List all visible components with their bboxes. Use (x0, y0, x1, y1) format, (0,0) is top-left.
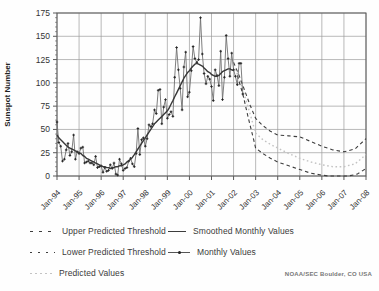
svg-text:Jan-96: Jan-96 (83, 188, 107, 212)
svg-text:Jan-05: Jan-05 (282, 188, 306, 212)
svg-text:Jan-94: Jan-94 (39, 188, 63, 212)
svg-text:Jan-01: Jan-01 (193, 188, 217, 212)
svg-text:125: 125 (36, 55, 50, 65)
smoothed-line-sample-icon (168, 229, 186, 234)
svg-text:Jan-97: Jan-97 (105, 188, 129, 212)
legend-label: Upper Predicted Threshold (62, 226, 166, 236)
svg-text:0: 0 (45, 171, 50, 181)
svg-text:Jan-03: Jan-03 (237, 188, 261, 212)
sunspot-progression-chart: 0255075100125150175Jan-94Jan-95Jan-96Jan… (0, 0, 379, 291)
svg-text:Jan-07: Jan-07 (326, 188, 350, 212)
legend-lower-predicted-threshold: Lower Predicted Threshold (30, 247, 166, 257)
legend-label: Monthly Values (197, 247, 256, 257)
legend-monthly-values: Monthly Values (168, 247, 256, 257)
legend-label: Predicted Values (59, 268, 124, 278)
legend-smoothed-monthly-values: Smoothed Monthly Values (168, 226, 294, 236)
svg-text:75: 75 (41, 101, 51, 111)
svg-text:Jan-06: Jan-06 (304, 188, 328, 212)
svg-text:Jan-95: Jan-95 (61, 188, 85, 212)
lower-threshold-line-sample-icon (30, 250, 55, 255)
predicted-line-sample-icon (30, 271, 52, 276)
legend-label: Smoothed Monthly Values (193, 226, 294, 236)
svg-text:Jan-99: Jan-99 (149, 188, 173, 212)
svg-text:Jan-04: Jan-04 (259, 188, 283, 212)
upper-threshold-line-sample-icon (30, 229, 55, 234)
svg-text:Jan-00: Jan-00 (171, 188, 195, 212)
svg-text:100: 100 (36, 78, 50, 88)
svg-text:Jan-08: Jan-08 (348, 188, 372, 212)
legend-label: Lower Predicted Threshold (62, 247, 166, 257)
chart-canvas: 0255075100125150175Jan-94Jan-95Jan-96Jan… (0, 0, 379, 218)
svg-text:25: 25 (41, 148, 51, 158)
svg-text:Jan-98: Jan-98 (127, 188, 151, 212)
legend-predicted-values: Predicted Values (30, 268, 124, 278)
svg-text:Jan-02: Jan-02 (215, 188, 239, 212)
svg-text:50: 50 (41, 124, 51, 134)
legend-upper-predicted-threshold: Upper Predicted Threshold (30, 226, 166, 236)
credit-text: NOAA/SEC Boulder, CO USA (285, 271, 372, 277)
svg-text:Sunspot Number: Sunspot Number (3, 62, 12, 126)
svg-text:150: 150 (36, 31, 50, 41)
monthly-line-sample-icon (168, 250, 190, 255)
svg-text:175: 175 (36, 8, 50, 18)
